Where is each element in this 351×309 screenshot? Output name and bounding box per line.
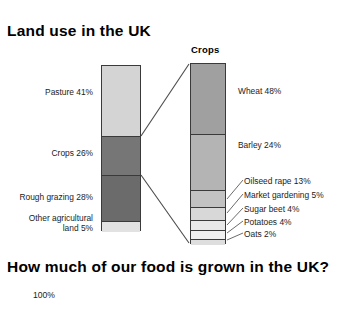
infographic-canvas: Land use in the UK Crops How much of our… [0, 0, 351, 309]
segment-pasture [102, 66, 140, 136]
segment-rough-grazing [102, 175, 140, 221]
label-crops: Crops 26% [5, 148, 93, 158]
label-wheat: Wheat 48% [238, 86, 281, 96]
segment-potatoes [191, 230, 225, 239]
label-other-agricultural-land-line1: Other agricultural [1, 213, 93, 223]
label-sugar-beet: Sugar beet 4% [244, 204, 299, 214]
label-oats: Oats 2% [244, 229, 276, 239]
chart-crops-bar [190, 63, 226, 244]
segment-other-agricultural-land [102, 221, 140, 232]
bottom-chart-axis-tick-100: 100% [33, 290, 55, 300]
segment-oats [191, 239, 225, 245]
label-oilseed-rape: Oilseed rape 13% [244, 176, 311, 186]
segment-sugar-beet [191, 220, 225, 230]
crops-callout-heading: Crops [191, 44, 219, 55]
segment-market-gardening [191, 207, 225, 220]
label-rough-grazing: Rough grazing 28% [1, 192, 93, 202]
chart-land-use-bar [101, 65, 141, 231]
bottom-chart-title: How much of our food is grown in the UK? [7, 258, 329, 276]
page-title: Land use in the UK [7, 22, 151, 40]
segment-barley [191, 134, 225, 190]
segment-crops [102, 136, 140, 175]
label-potatoes: Potatoes 4% [244, 217, 292, 227]
label-other-agricultural-land-line2: land 5% [1, 223, 93, 233]
label-barley: Barley 24% [238, 140, 281, 150]
segment-oilseed-rape [191, 190, 225, 207]
label-pasture: Pasture 41% [5, 87, 93, 97]
segment-wheat [191, 64, 225, 134]
bottom-chart-region [30, 288, 351, 309]
label-market-gardening: Market gardening 5% [244, 190, 324, 200]
